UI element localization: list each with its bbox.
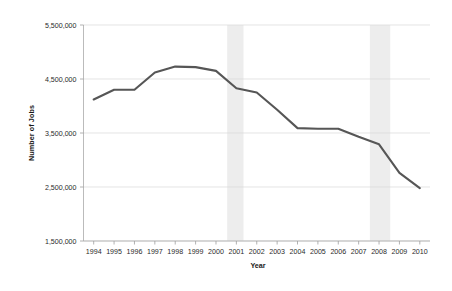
x-tick-label: 2010 — [412, 248, 428, 256]
x-tick-label: 1999 — [188, 248, 204, 256]
x-tick-label: 2006 — [330, 248, 346, 256]
y-tick-label: 3,500,000 — [45, 130, 77, 138]
y-tick-label: 5,500,000 — [45, 22, 77, 30]
x-axis-title: Year — [250, 261, 265, 270]
x-tick-label: 1994 — [86, 248, 102, 256]
y-tick-label: 4,500,000 — [45, 76, 77, 84]
x-axis-tick-labels: 1994199519961997199819992000200120022003… — [86, 248, 428, 256]
x-tick-label: 2001 — [228, 248, 244, 256]
x-tick-label: 2003 — [269, 248, 285, 256]
y-axis-title: Number of Jobs — [27, 105, 36, 161]
y-tick-label: 2,500,000 — [45, 184, 77, 192]
x-tick-label: 2009 — [392, 248, 408, 256]
x-tick-label: 2002 — [249, 248, 265, 256]
x-tick-label: 2007 — [351, 248, 367, 256]
x-tick-label: 1998 — [167, 248, 183, 256]
line-chart: 1,500,0002,500,0003,500,0004,500,0005,50… — [0, 0, 452, 291]
chart-figure: 1,500,0002,500,0003,500,0004,500,0005,50… — [0, 0, 452, 291]
x-tick-label: 2004 — [290, 248, 306, 256]
x-tick-label: 2000 — [208, 248, 224, 256]
x-tick-label: 2008 — [371, 248, 387, 256]
y-tick-label: 1,500,000 — [45, 238, 77, 246]
x-tick-label: 1995 — [106, 248, 122, 256]
x-tick-label: 1997 — [147, 248, 163, 256]
x-tick-label: 2005 — [310, 248, 326, 256]
x-tick-label: 1996 — [127, 248, 143, 256]
